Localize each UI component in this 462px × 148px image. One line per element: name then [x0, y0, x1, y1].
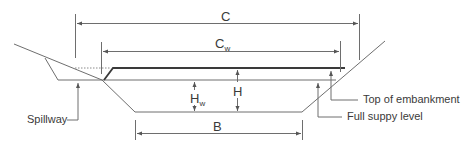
label-b-text: B: [213, 119, 222, 134]
label-c-text: C: [221, 9, 230, 24]
callout-top-of-embankment: Top of embankment: [363, 94, 460, 105]
label-c: C: [221, 10, 230, 23]
callout-spillway: Spillway: [27, 114, 67, 125]
label-cw-sub: w: [224, 44, 230, 53]
left-bank-slope: [14, 44, 135, 112]
label-hw: Hw: [190, 92, 205, 105]
label-h-text: H: [233, 84, 242, 99]
diagram-lines: [0, 0, 462, 148]
label-cw-main: C: [215, 36, 224, 51]
label-hw-main: H: [190, 91, 199, 106]
embankment-top: [104, 68, 345, 80]
spillway-leader: [67, 83, 78, 120]
label-cw: Cw: [215, 37, 230, 50]
label-b: B: [213, 120, 222, 133]
channel-cross-section-diagram: C Cw H Hw B Spillway Top of embankment F…: [0, 0, 462, 148]
callout-full-supply-level: Full suppy level: [347, 111, 423, 122]
label-hw-sub: w: [199, 99, 205, 108]
label-h: H: [233, 85, 242, 98]
